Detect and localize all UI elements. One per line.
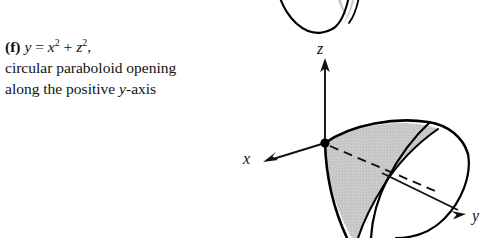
description-line-2-variable: y bbox=[119, 80, 126, 97]
origin-dot bbox=[320, 138, 329, 147]
previous-paraboloid-right-edge bbox=[349, 0, 362, 23]
equation-plus: + bbox=[64, 38, 73, 55]
previous-paraboloid-left-edge bbox=[275, 0, 308, 31]
equation-equals: = bbox=[35, 38, 44, 55]
y-axis-arrowhead bbox=[451, 211, 466, 220]
previous-paraboloid-bottom-edge bbox=[308, 28, 334, 33]
description-line-2-prefix: along the positive bbox=[5, 80, 119, 97]
figure-caption: (f) y = x2 + z2, circular paraboloid ope… bbox=[5, 36, 235, 99]
figure-page: z x y (f) y = x2 + z2, circular parabolo… bbox=[0, 0, 503, 238]
z-axis bbox=[320, 58, 330, 143]
x-axis-line bbox=[273, 143, 325, 159]
previous-paraboloid-bottom bbox=[275, 0, 362, 33]
y-axis-label: y bbox=[472, 207, 479, 225]
z-axis-label: z bbox=[317, 40, 323, 58]
x-axis-label: x bbox=[243, 150, 250, 168]
part-label: (f) bbox=[5, 38, 21, 55]
caption-description-line-2: along the positive y-axis bbox=[5, 78, 235, 99]
caption-description-line-1: circular paraboloid opening bbox=[5, 57, 235, 78]
equation-trailing-comma: , bbox=[87, 38, 91, 55]
equation-term1-base: x bbox=[48, 38, 55, 55]
caption-equation-line: (f) y = x2 + z2, bbox=[5, 36, 235, 57]
description-line-2-suffix: -axis bbox=[126, 80, 156, 97]
x-axis bbox=[263, 143, 325, 162]
x-axis-arrowhead bbox=[263, 152, 278, 162]
